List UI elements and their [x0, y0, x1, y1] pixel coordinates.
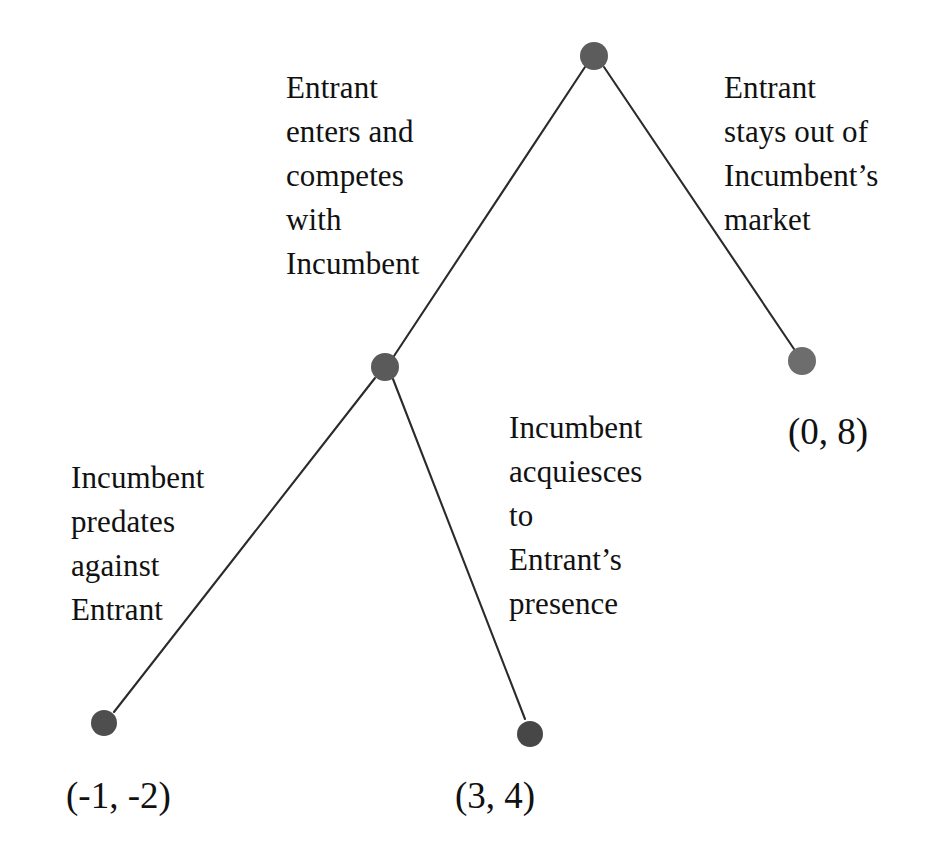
branch-enter[interactable] — [394, 67, 585, 356]
edge-label-acquiesces: Incumbent acquiesces to Entrant’s presen… — [509, 406, 643, 626]
terminal-node-predation[interactable] — [91, 710, 117, 736]
terminal-node-acquiescence[interactable] — [517, 721, 543, 747]
payoff-label-stay-out: (0, 8) — [788, 410, 868, 454]
game-tree-diagram: Entrant enters and competes with Incumbe… — [0, 0, 939, 866]
payoff-label-predation: (-1, -2) — [66, 774, 171, 818]
edge-label-stays-out: Entrant stays out of Incumbent’s market — [724, 66, 878, 242]
edge-label-enter-and-compete: Entrant enters and competes with Incumbe… — [286, 66, 419, 286]
terminal-node-stay-out[interactable] — [788, 347, 816, 375]
payoff-label-acquiescence: (3, 4) — [455, 774, 535, 818]
incumbent-decision-node[interactable] — [371, 353, 399, 381]
edge-label-predates: Incumbent predates against Entrant — [71, 456, 204, 632]
root-decision-node[interactable] — [580, 42, 608, 70]
branch-acquiesce[interactable] — [393, 379, 525, 719]
